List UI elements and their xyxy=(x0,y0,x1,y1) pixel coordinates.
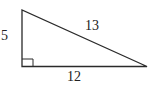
horizontal-leg-label: 12 xyxy=(67,69,81,84)
vertical-leg-label: 5 xyxy=(1,28,8,43)
right-angle-marker xyxy=(22,59,33,67)
hypotenuse-label: 13 xyxy=(85,18,99,33)
right-triangle-diagram: 5 13 12 xyxy=(0,0,153,90)
